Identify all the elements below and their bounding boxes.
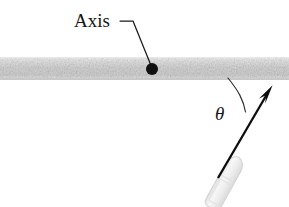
figure-canvas: Axis θ bbox=[0, 0, 289, 207]
rod-body bbox=[0, 57, 289, 80]
rod-bottom-edge bbox=[0, 78, 289, 79]
axis-label: Axis bbox=[74, 10, 110, 31]
pivot-dot bbox=[146, 63, 158, 75]
rod-group bbox=[0, 57, 289, 80]
theta-label: θ bbox=[215, 103, 224, 124]
velocity-arrow-group bbox=[218, 85, 273, 178]
bullet-group bbox=[203, 153, 246, 207]
angle-arc bbox=[228, 78, 246, 112]
physics-figure: Axis θ bbox=[0, 0, 289, 207]
rod-top-edge bbox=[0, 57, 289, 58]
velocity-arrow-head bbox=[259, 85, 273, 103]
